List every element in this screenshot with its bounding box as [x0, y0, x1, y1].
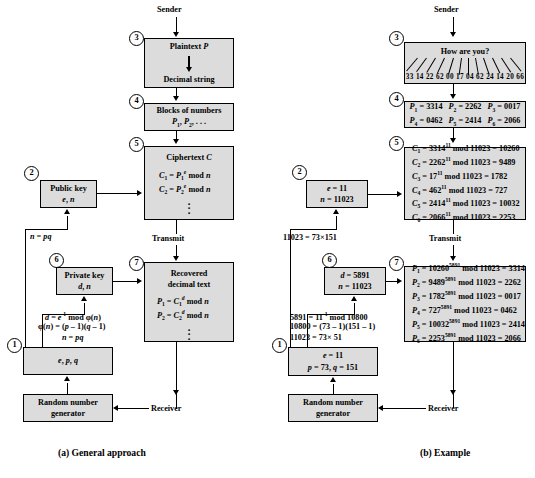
- step-circle-2-b: 2: [292, 165, 307, 180]
- message-label-b: How are you?: [441, 46, 490, 57]
- recovered-p6-b: P6 = 22535891 mod 11023 = 2066: [412, 332, 521, 346]
- step-circle-2-a: 2: [24, 166, 39, 181]
- annotation-n-factor-b: 11023 = 73×151: [283, 233, 337, 242]
- recovered-box-a: Recovered decimal text P1 = C1d mod n P2…: [144, 262, 234, 342]
- private-key-box-a: Private key d, n: [56, 267, 113, 295]
- arrow-transmit-b: [450, 256, 456, 261]
- line-privkey-to-recovered-a: [113, 281, 138, 282]
- recovered-box-b: P1 = 102605891 mod 11023 = 3314 P2 = 948…: [404, 266, 526, 342]
- cipher-c4-b: C4 = 46211 mod 11023 = 727: [412, 184, 507, 198]
- cipher-c5-b: C5 = 241411 mod 11023 = 10032: [412, 197, 520, 211]
- private-key-label-a: Private key: [65, 270, 105, 281]
- line-receiver-b: [383, 408, 426, 409]
- block-p3-b: P3 = 0017: [487, 101, 520, 114]
- caption-b: (b) Example: [420, 447, 470, 458]
- annotation-n-formula-b: 11023 = 73× 51: [290, 333, 342, 342]
- annotation-n-pq-a: n = pq: [30, 232, 52, 241]
- step-circle-7-a: 7: [129, 256, 144, 271]
- ciphertext-eq1-a: C1 = P1e mod n: [159, 169, 210, 183]
- rng-label2-b: generator: [316, 408, 350, 419]
- public-key-values-a: e, n: [62, 194, 74, 205]
- arrow-4to5-a: [173, 139, 179, 144]
- plaintext-box-b: How are you? 33 14 22 62 00 17 04 62 24 …: [404, 42, 526, 84]
- recovered-title2-a: decimal text: [168, 279, 211, 290]
- public-key-n-b: n = 11023: [320, 194, 353, 205]
- rng-label1-a: Random number: [38, 397, 98, 408]
- block-p6-b: P6 = 2066: [487, 115, 520, 128]
- step-circle-3-b: 3: [389, 31, 404, 46]
- cipher-c2-b: C2 = 226211 mod 11023 = 9489: [412, 156, 515, 170]
- private-key-box-b: d = 5891 n = 11023: [324, 267, 386, 295]
- private-key-values-a: d, n: [78, 281, 91, 292]
- sender-label-a: Sender: [157, 5, 182, 14]
- panel-general-approach: Sender 3 Plaintext P Decimal string 4 Bl…: [0, 0, 267, 478]
- step-circle-6-a: 6: [49, 253, 64, 268]
- arrow-privkey-to-recovered-a: [137, 278, 142, 284]
- fan-line: [501, 58, 511, 73]
- step-circle-6-b: 6: [322, 253, 337, 268]
- rng-label1-b: Random number: [303, 397, 363, 408]
- step-circle-4-b: 4: [389, 92, 404, 107]
- line-pubkey-to-cipher-b: [368, 194, 398, 195]
- public-key-label-a: Public key: [50, 183, 87, 194]
- keygen-pq-b: p = 73, q = 151: [308, 362, 358, 373]
- annotation-d-formula-b: 5891 = 11-1 mod 10800: [290, 311, 368, 322]
- rng-box-b: Random number generator: [288, 394, 378, 422]
- recovered-p3-b: P3 = 17825891 mod 11023 = 0017: [412, 290, 521, 304]
- arrow-privkey-to-recovered-b: [397, 278, 402, 284]
- sender-label-b: Sender: [434, 5, 459, 14]
- cipher-c6-b: C6 = 206611 mod 11023 = 2253: [412, 211, 515, 225]
- line-pubkey-to-cipher-a: [97, 193, 138, 194]
- step-circle-1-b: 1: [272, 338, 287, 353]
- recovered-dots-a: ···: [187, 328, 191, 342]
- block-p5-b: P5 = 2414: [449, 115, 482, 128]
- step-circle-7-b: 7: [389, 256, 404, 271]
- panel-example: Sender 3 How are you? 33 14 22 62 00 17 …: [268, 0, 535, 478]
- arrow-pubkey-riser-a: [64, 209, 70, 214]
- arrow-receiver-b: [378, 405, 383, 411]
- ciphertext-dots-a: ···: [187, 202, 191, 216]
- line-pubkey-riser-b: [336, 216, 337, 230]
- cipher-c3-b: C3 = 1711 mod 11023 = 1782: [412, 170, 507, 184]
- keygen-values-a: e, p, q: [58, 355, 78, 366]
- line-pubkey-horizontal-b: [290, 229, 337, 230]
- ciphertext-title-a: Ciphertext C: [166, 152, 211, 163]
- rng-box-a: Random number generator: [23, 394, 113, 422]
- transmit-label-b: Transmit: [429, 234, 461, 243]
- fan-line: [448, 58, 454, 75]
- annotation-phi-formula-b: 10800 = (73 – 1)(151 – 1): [290, 322, 375, 331]
- blocks-row2-b: P4 = 0462 P5 = 2414 P6 = 2066: [410, 115, 521, 128]
- block-p4-b: P4 = 0462: [410, 115, 443, 128]
- recovered-title1-a: Recovered: [171, 268, 208, 279]
- recovered-p1-b: P1 = 102605891 mod 11023 = 3314: [412, 262, 525, 276]
- rng-label2-a: generator: [51, 408, 85, 419]
- fan-lines-group-b: [409, 58, 521, 72]
- blocks-box-b: P1 = 3314 P2 = 2262 P3 = 0017 P4 = 0462 …: [404, 101, 526, 128]
- arrow-head-sender-b: [450, 32, 456, 37]
- keygen-box-a: e, p, q: [23, 347, 113, 375]
- step-circle-3-a: 3: [129, 31, 144, 46]
- inner-line-plaintext-a: [188, 56, 189, 67]
- arrow-pubkey-to-cipher-a: [137, 190, 142, 196]
- arrow-pubkey-riser-b: [333, 209, 339, 214]
- fan-line: [426, 58, 436, 73]
- line-recovered-down-b: [453, 342, 454, 408]
- keygen-box-b: e = 11 p = 73, q = 151: [288, 347, 378, 376]
- blocks-row1-b: P1 = 3314 P2 = 2262 P3 = 0017: [410, 101, 521, 114]
- arrow-pubkey-to-cipher-b: [397, 191, 402, 197]
- line-pubkey-horizontal-a: [25, 229, 68, 230]
- fan-line: [510, 58, 521, 72]
- recovered-p4-b: P4 = 7275891 mod 11023 = 0462: [412, 304, 517, 318]
- private-key-d-b: d = 5891: [340, 270, 369, 281]
- step-circle-5-a: 5: [129, 137, 144, 152]
- step-circle-1-a: 1: [7, 338, 22, 353]
- block-p2-b: P2 = 2262: [449, 101, 482, 114]
- blocks-values-a: P1, P2, . . .: [172, 116, 206, 129]
- arrow-rng-to-keygen-a: [64, 376, 70, 381]
- step-circle-5-b: 5: [389, 136, 404, 151]
- inner-arrow-plaintext-a: [186, 67, 192, 72]
- caption-a: (a) General approach: [58, 447, 146, 458]
- arrow-head-sender-a: [173, 32, 179, 37]
- ciphertext-eq2-a: C2 = P2e mod n: [159, 183, 210, 197]
- public-key-box-a: Public key e, n: [40, 180, 97, 208]
